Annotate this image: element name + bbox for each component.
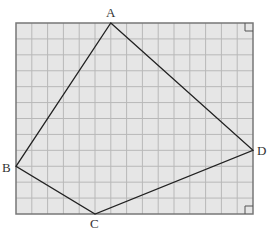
vertex-label-d: D [257,143,266,158]
vertex-label-c: C [90,216,99,231]
vertex-label-b: B [2,160,11,175]
quadrilateral-on-grid-diagram: A B C D [0,0,271,231]
vertex-label-a: A [106,5,116,20]
